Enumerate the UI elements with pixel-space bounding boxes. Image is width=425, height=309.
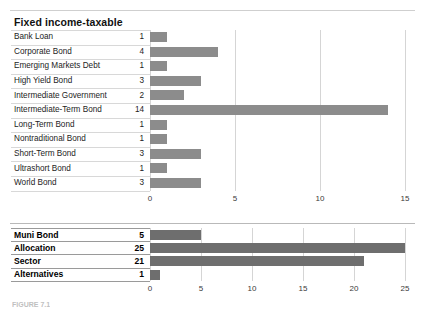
category-value: 4 (100, 48, 144, 56)
category-label: Bank Loan (14, 33, 53, 41)
x-axis-tick-label: 15 (393, 195, 417, 203)
row-separator (11, 281, 150, 282)
x-axis-tick-label: 25 (393, 285, 417, 293)
chart-row: Bank Loan1 (0, 30, 425, 45)
row-separator (11, 30, 150, 31)
category-label: Nontraditional Bond (14, 135, 86, 143)
chart-fixed-income-taxable: Bank Loan1Corporate Bond4Emerging Market… (0, 30, 425, 207)
category-value: 14 (100, 106, 144, 114)
x-axis-tick-label: 10 (240, 285, 264, 293)
x-axis-tick-label: 15 (291, 285, 315, 293)
chart-row: Sector21 (0, 254, 425, 267)
category-label: Short-Term Bond (14, 150, 76, 158)
category-label: Sector (14, 257, 41, 266)
bar (150, 47, 218, 57)
bar (150, 120, 167, 130)
row-separator (11, 132, 150, 133)
bar (150, 105, 388, 115)
chart-row: Allocation25 (0, 241, 425, 254)
top-divider (10, 10, 415, 11)
bar (150, 149, 201, 159)
bar (150, 61, 167, 71)
category-label: Ultrashort Bond (14, 165, 71, 173)
bar (150, 90, 184, 100)
bar (150, 256, 364, 266)
chart-row: High Yield Bond3 (0, 74, 425, 89)
x-axis-tick-label: 10 (308, 195, 332, 203)
category-label: Allocation (14, 244, 56, 253)
bar (150, 270, 160, 280)
category-value: 2 (100, 92, 144, 100)
category-value: 3 (100, 179, 144, 187)
row-separator (11, 176, 150, 177)
figure-caption: FIGURE 7.1 (12, 301, 50, 308)
bar (150, 76, 201, 86)
category-label: High Yield Bond (14, 77, 72, 85)
category-label: Long-Term Bond (14, 121, 75, 129)
x-axis-tick-label: 5 (223, 195, 247, 203)
x-axis-tick-label: 5 (189, 285, 213, 293)
chart-row: Intermediate-Term Bond14 (0, 103, 425, 118)
bar (150, 243, 405, 253)
row-separator (11, 118, 150, 119)
row-separator (11, 45, 150, 46)
bar (150, 178, 201, 188)
category-label: Intermediate-Term Bond (14, 106, 102, 114)
chart-row: Emerging Markets Debt1 (0, 59, 425, 74)
page-title: Fixed income-taxable (14, 16, 123, 28)
x-axis-tick-label: 0 (138, 195, 162, 203)
bar (150, 32, 167, 42)
chart-row: Corporate Bond4 (0, 45, 425, 60)
category-value: 1 (100, 135, 144, 143)
chart-row: Nontraditional Bond1 (0, 132, 425, 147)
bar (150, 134, 167, 144)
category-value: 1 (100, 270, 144, 279)
x-axis-tick-label: 20 (342, 285, 366, 293)
chart-row: Short-Term Bond3 (0, 147, 425, 162)
category-value: 5 (100, 231, 144, 240)
chart-row: Long-Term Bond1 (0, 118, 425, 133)
row-separator (11, 228, 150, 229)
category-label: Muni Bond (14, 231, 58, 240)
category-label: Emerging Markets Debt (14, 62, 100, 70)
row-separator (11, 161, 150, 162)
category-value: 25 (100, 244, 144, 253)
row-separator (11, 59, 150, 60)
row-separator (11, 74, 150, 75)
x-axis-tick-label: 0 (138, 285, 162, 293)
chart-other-categories: Muni Bond5Allocation25Sector21Alternativ… (0, 228, 425, 297)
category-label: Corporate Bond (14, 48, 72, 56)
row-separator (11, 88, 150, 89)
category-value: 1 (100, 62, 144, 70)
row-separator (11, 147, 150, 148)
chart-row: Intermediate Government2 (0, 88, 425, 103)
category-value: 3 (100, 150, 144, 158)
category-value: 1 (100, 33, 144, 41)
chart-row: Alternatives1 (0, 268, 425, 281)
row-separator (11, 103, 150, 104)
category-label: World Bond (14, 179, 57, 187)
chart-section-divider (10, 223, 415, 224)
bar (150, 230, 201, 240)
category-label: Intermediate Government (14, 92, 107, 100)
category-value: 3 (100, 77, 144, 85)
category-value: 21 (100, 257, 144, 266)
chart-row: World Bond3 (0, 176, 425, 191)
chart-row: Muni Bond5 (0, 228, 425, 241)
row-separator (11, 191, 150, 192)
category-label: Alternatives (14, 270, 63, 279)
category-value: 1 (100, 165, 144, 173)
bar (150, 163, 167, 173)
chart-row: Ultrashort Bond1 (0, 161, 425, 176)
category-value: 1 (100, 121, 144, 129)
